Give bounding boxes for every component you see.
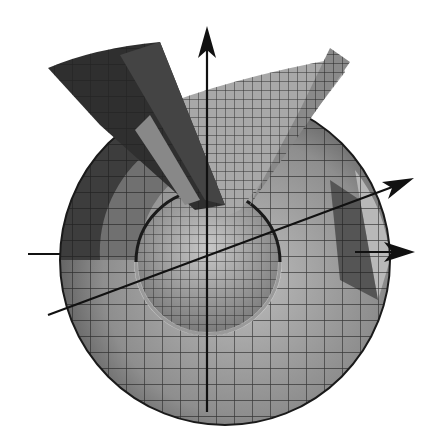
diagram-figure bbox=[0, 0, 444, 435]
sphere-cone-diagram bbox=[0, 0, 444, 435]
